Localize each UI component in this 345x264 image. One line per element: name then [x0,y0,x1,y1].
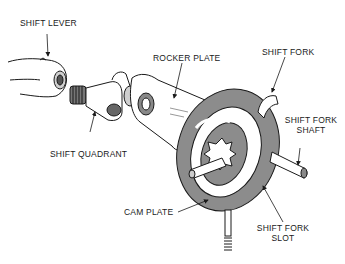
label-shift-fork-shaft: SHIFT FORK SHAFT [278,115,344,135]
shift-quadrant-body [86,72,136,121]
shift-lever-socket [54,71,66,89]
label-shift-fork-shaft-line2: SHAFT [278,125,344,135]
detent-rod [224,210,232,250]
label-shift-fork-slot-line1: SHIFT FORK [250,223,316,233]
shift-mechanism-diagram: SHIFT LEVER ROCKER PLATE SHIFT FORK SHIF… [0,0,345,264]
label-shift-fork: SHIFT FORK [262,47,314,57]
label-shift-lever: SHIFT LEVER [20,18,77,28]
shift-fork-shaft [270,152,307,178]
label-shift-quadrant: SHIFT QUADRANT [50,149,127,159]
label-cam-plate: CAM PLATE [124,207,173,217]
label-rocker-plate: ROCKER PLATE [153,53,220,63]
splined-shaft [70,86,86,104]
label-shift-fork-shaft-line1: SHIFT FORK [278,115,344,125]
label-shift-fork-slot: SHIFT FORK SLOT [250,223,316,243]
label-shift-fork-slot-line2: SLOT [250,233,316,243]
